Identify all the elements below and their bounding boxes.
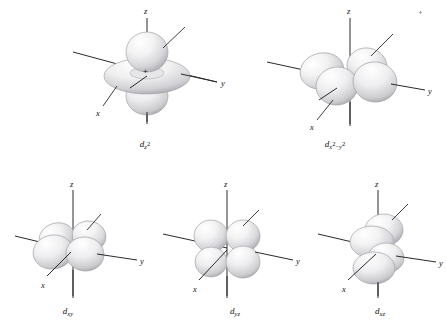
orbital-lobe-top bbox=[126, 32, 168, 72]
axis-label-y: y bbox=[438, 258, 443, 268]
axis-label-y: y bbox=[220, 78, 225, 88]
orbital-lobe-lower-front bbox=[353, 252, 395, 284]
leader-line-front-lobe bbox=[317, 100, 333, 120]
orbital-dxy: z y x bbox=[5, 178, 155, 303]
d-orbital-figure: z y x + dz2 z y x bbox=[0, 0, 447, 335]
axis-label-x: x bbox=[309, 122, 314, 132]
orbital-label-dxy: dxy bbox=[38, 306, 98, 317]
page-speck bbox=[419, 11, 422, 14]
orbital-dx2-y2: z y x bbox=[255, 4, 440, 134]
axis-label-z: z bbox=[374, 179, 379, 189]
leader-line-top-lobe bbox=[163, 27, 185, 48]
axis-label-z: z bbox=[223, 179, 228, 189]
orbital-dz2: z y x + bbox=[55, 4, 240, 134]
orbital-lobe-lower-left bbox=[195, 247, 227, 277]
axis-label-x: x bbox=[40, 280, 45, 290]
orbital-plus-sign: + bbox=[143, 67, 148, 76]
axis-label-y: y bbox=[139, 256, 144, 266]
orbital-label-dz2: dz2 bbox=[110, 139, 180, 150]
axis-label-y: y bbox=[427, 86, 432, 96]
axis-label-x: x bbox=[192, 284, 197, 294]
orbital-lobe-lower-right bbox=[226, 246, 260, 278]
orbital-label-dxz: dxz bbox=[350, 306, 410, 317]
leader-line-back-lobe bbox=[371, 34, 393, 56]
axis-label-x: x bbox=[341, 284, 346, 294]
orbital-label-dx2-y2: dx2−y2 bbox=[295, 139, 375, 150]
axis-label-x: x bbox=[95, 108, 100, 118]
leader-line-lobe bbox=[392, 204, 408, 220]
axis-line-y bbox=[255, 252, 293, 260]
orbital-label-dyz: dyz bbox=[205, 306, 265, 317]
orbital-dxz: z y x bbox=[300, 178, 447, 303]
leader-line-torus bbox=[103, 86, 117, 106]
axis-label-z: z bbox=[69, 179, 74, 189]
orbital-dyz: z y x bbox=[155, 178, 305, 303]
axis-label-z: z bbox=[346, 6, 351, 16]
axis-label-z: z bbox=[143, 6, 148, 16]
